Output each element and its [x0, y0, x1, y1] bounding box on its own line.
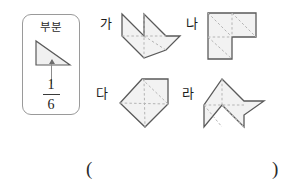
figure-da-label: 다 [96, 86, 108, 101]
answer-line: ( ) [0, 158, 286, 188]
figure-ra-label: 라 [182, 86, 194, 101]
fraction-bar [43, 94, 60, 95]
fraction-denominator: 6 [23, 97, 79, 113]
figure-da[interactable]: 다 [96, 76, 178, 130]
reference-box-label: 부분 [23, 20, 79, 34]
figure-na[interactable]: 나 [186, 10, 264, 62]
worksheet-page: 부분 1 6 가 나 [0, 0, 286, 196]
reference-box: 부분 1 6 [22, 14, 80, 115]
answer-open-paren: ( [86, 158, 92, 180]
figure-ga-label: 가 [100, 16, 112, 31]
figure-ra[interactable]: 라 [182, 76, 268, 130]
fraction-numerator: 1 [23, 77, 79, 93]
reference-fraction: 1 6 [23, 77, 79, 113]
answer-close-paren: ) [272, 158, 278, 180]
figure-na-label: 나 [186, 16, 198, 31]
figure-ra-shape [200, 76, 268, 130]
figure-da-shape [116, 76, 176, 130]
figure-na-shape [205, 10, 263, 62]
figure-ga[interactable]: 가 [100, 10, 182, 62]
figure-ga-shape [118, 10, 184, 62]
